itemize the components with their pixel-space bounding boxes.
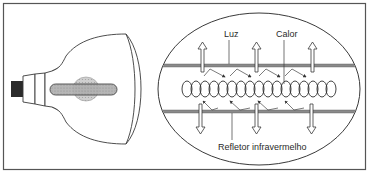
- reflector-layer-bottom: [150, 110, 369, 113]
- label-calor: Calor: [276, 29, 298, 39]
- reflector-layer-top: [150, 64, 369, 67]
- label-refletor: Refletor infravermelho: [218, 142, 307, 152]
- lamp-diagram-svg: Luz Calor Refletor infravermelho: [0, 0, 369, 174]
- filament-tube: [50, 84, 117, 95]
- diagram-canvas: Luz Calor Refletor infravermelho: [0, 0, 369, 174]
- lamp-base-cap: [11, 81, 23, 97]
- lamp-base-ring-1: [23, 74, 35, 104]
- label-luz: Luz: [224, 29, 239, 39]
- lamp-base-ring-2: [35, 73, 45, 106]
